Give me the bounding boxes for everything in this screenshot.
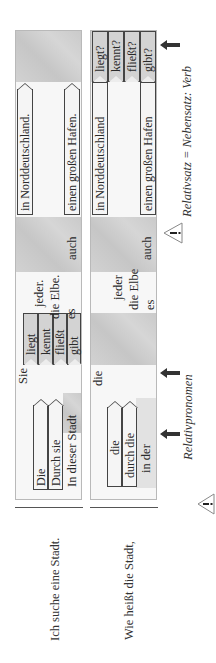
row1-subject-box-1: Die [33,405,48,490]
grammar-diagram: Ich suche eine Stadt. Die Durch sie In d… [0,0,216,663]
row2-subject-box-2: durch die [122,407,137,487]
row2-middle-2: die Elbe [127,269,141,310]
subject-text: Die [34,469,48,486]
row1-middle-3: es [64,309,78,319]
row2-divider [90,507,158,508]
ending-text: in Norddeutschland [93,117,107,211]
row2-verb-3: fließt? [124,31,140,82]
row2-verb-4: gibt? [140,31,156,82]
ending-text: in Norddeutschland. [18,114,32,211]
row2-ending-1: in Norddeutschland [92,82,108,215]
row2-sentence: Wie heißt die Stadt, [122,541,137,640]
row1-verb-1: liegt [23,313,38,365]
row1-divider [15,507,83,508]
verb-text: gibt [67,336,81,361]
row1-subject-3: In dieser Stadt [65,415,79,487]
row1-auch: auch [65,236,79,260]
row2-verb-2: kennt? [108,31,124,82]
row2-shade-pronoun [91,313,156,365]
arrow-up-icon-pronoun [160,368,180,378]
row2-subject-3: in der [139,444,153,473]
row2-middle-3: es [143,300,157,310]
row2-pronoun-slot: die [91,371,105,386]
row2-middle-1: jeder [111,275,125,300]
row1-ending-1: in Norddeutschland. [17,89,33,215]
relativsatz-rule-caption: Relativsatz = Nebensatz: Verb [180,66,195,217]
row2-auch: auch [140,236,154,260]
subject-text: Durch sie [49,440,63,486]
relativpronomen-caption: Relativpronomen [181,374,196,460]
row2-verb-1: liegt? [92,31,108,82]
row1-subject-box-2: Durch sie [48,405,63,490]
row1-middle-1: jeder. [32,280,46,307]
arrow-up-icon-verb [160,40,180,50]
row2-subject-box-1: die [107,407,122,487]
row1-verb-2: kennt [38,313,53,365]
row1-shade-end [16,31,81,82]
verb-text: kennt [39,328,53,361]
ending-text: einen großen Hafen [141,116,155,211]
ending-text: einen großen Hafen. [65,113,79,211]
verb-text: fließt [53,330,67,361]
warning-triangle-icon [197,493,215,515]
arrow-up-icon-subject [160,429,180,439]
warning-triangle-icon-rule [163,222,183,244]
row1-verb-3: fließt [53,313,67,365]
subject-text: durch die [123,433,137,483]
row1-middle-2: die Elbe. [48,275,62,319]
row1-verb-4: gibt [67,313,81,365]
row2-ending-2: einen großen Hafen [140,82,156,215]
verb-text: liegt? [93,45,107,78]
row2-shade-subject [136,398,156,488]
subject-text: die [108,440,122,483]
verb-text: gibt? [141,48,155,78]
verb-text: fließt? [125,41,139,78]
row1-sentence: Ich suche eine Stadt. [48,538,63,641]
row1-pronoun-slot: Sie [16,368,30,384]
verb-text: liegt [24,334,38,361]
verb-text: kennt? [109,40,123,78]
row1-ending-2: einen großen Hafen. [64,89,80,215]
